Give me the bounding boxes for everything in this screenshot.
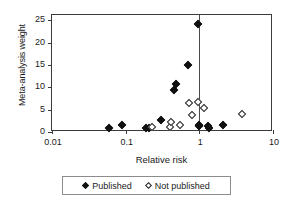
data-point [219, 121, 227, 129]
x-axis-title: Relative risk [51, 154, 272, 165]
y-tick-label: 0 [40, 126, 45, 136]
legend-item-not-published: Not published [146, 181, 210, 191]
data-point [200, 104, 208, 112]
x-tick: 1 [199, 130, 200, 134]
open-diamond-icon [145, 182, 152, 189]
y-axis-title: Meta-analysis weight [14, 0, 30, 130]
data-point [176, 121, 184, 129]
legend-label: Not published [155, 181, 210, 191]
y-tick-label: 5 [40, 104, 45, 114]
plot-area: 0510152025 0.010.1110 [51, 14, 272, 131]
y-tick: 25 [48, 20, 52, 21]
data-point [184, 61, 192, 69]
data-point [118, 121, 126, 129]
data-point [185, 99, 193, 107]
x-tick-label: 0.01 [44, 137, 62, 147]
x-tick: 0.1 [126, 130, 127, 134]
data-point [105, 124, 113, 132]
y-tick: 15 [48, 65, 52, 66]
y-tick-label: 25 [35, 14, 45, 24]
y-tick: 20 [48, 43, 52, 44]
scatter-plot-figure: Meta-analysis weight 0510152025 0.010.11… [0, 0, 293, 202]
data-point [238, 110, 246, 118]
data-point [157, 116, 165, 124]
y-tick-label: 15 [35, 59, 45, 69]
x-tick-label: 10 [269, 137, 279, 147]
filled-diamond-icon [82, 182, 89, 189]
y-tick: 10 [48, 87, 52, 88]
reference-line-rr-1 [199, 15, 200, 132]
data-point [193, 20, 201, 28]
chart-legend: Published Not published [62, 176, 231, 195]
x-tick-label: 0.1 [120, 137, 133, 147]
legend-item-published: Published [83, 181, 132, 191]
y-tick-label: 20 [35, 37, 45, 47]
y-tick: 5 [48, 110, 52, 111]
x-tick-label: 1 [198, 137, 203, 147]
legend-label: Published [92, 181, 132, 191]
y-tick-label: 10 [35, 81, 45, 91]
data-point [188, 110, 196, 118]
x-tick: 10 [273, 130, 274, 134]
x-tick: 0.01 [52, 130, 53, 134]
